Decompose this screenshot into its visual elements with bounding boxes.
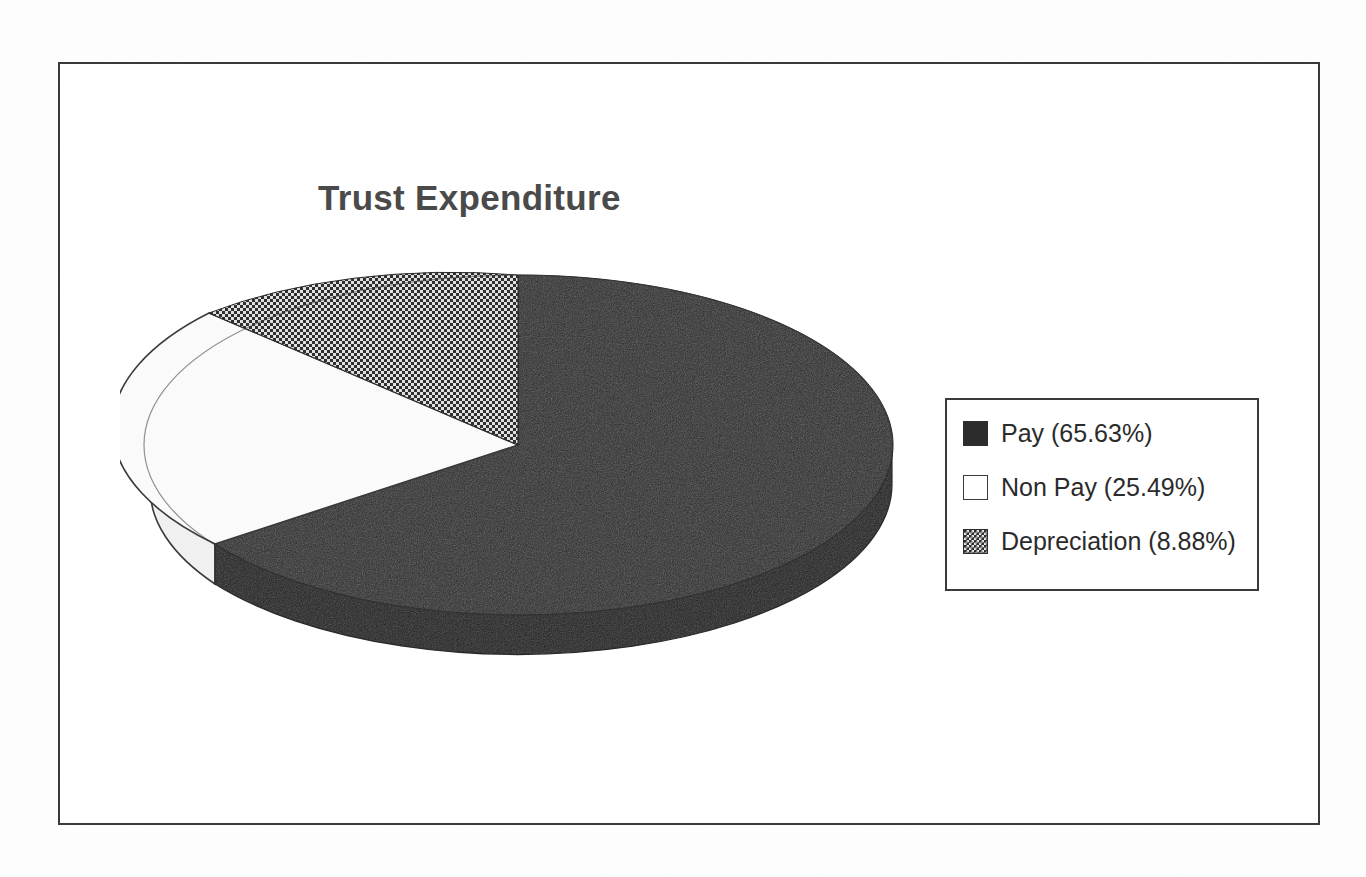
pie-chart-svg <box>120 260 930 730</box>
chart-legend: Pay (65.63%) Non Pay (25.49%) Depreciati… <box>945 398 1259 591</box>
legend-item-non-pay[interactable]: Non Pay (25.49%) <box>963 472 1205 502</box>
legend-swatch-depreciation-icon <box>963 529 988 554</box>
legend-label-non-pay: Non Pay (25.49%) <box>1001 475 1205 500</box>
legend-label-depreciation: Depreciation (8.88%) <box>1001 529 1236 554</box>
chart-title: Trust Expenditure <box>318 178 621 218</box>
legend-item-depreciation[interactable]: Depreciation (8.88%) <box>963 526 1236 556</box>
legend-item-pay[interactable]: Pay (65.63%) <box>963 418 1152 448</box>
page-canvas: Trust Expenditure <box>0 0 1366 877</box>
legend-swatch-pay-icon <box>963 421 988 446</box>
legend-swatch-non-pay-icon <box>963 475 988 500</box>
legend-label-pay: Pay (65.63%) <box>1001 421 1152 446</box>
pie-chart <box>120 260 930 730</box>
